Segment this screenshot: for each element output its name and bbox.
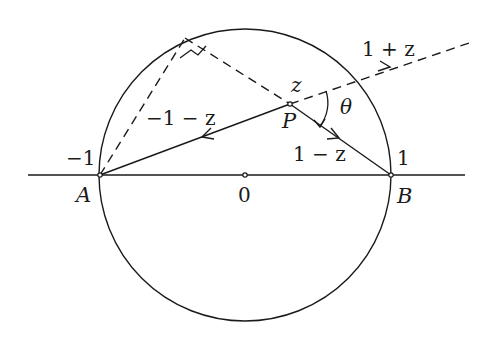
label-P: P [281,109,297,133]
label-one: 1 [397,146,410,170]
label-minus-one-minus-z: −1 − z [146,106,216,130]
label-z: z [290,73,302,97]
diagram-canvas: −1 A 0 1 B z P θ −1 − z 1 − z 1 + z [0,0,490,338]
label-one-minus-z: 1 − z [293,142,346,166]
right-angle-marker [180,46,206,58]
arrowhead-1-plus-z [378,61,390,71]
point-origin [243,173,247,177]
label-zero: 0 [238,183,251,207]
point-B [389,173,393,177]
point-P [288,102,292,106]
label-minus-one: −1 [66,146,95,170]
label-theta: θ [340,95,352,119]
point-A [98,173,102,177]
label-one-plus-z: 1 + z [362,37,415,61]
label-A: A [74,183,91,207]
dashed-top-to-P [185,38,290,104]
label-B: B [396,184,412,208]
